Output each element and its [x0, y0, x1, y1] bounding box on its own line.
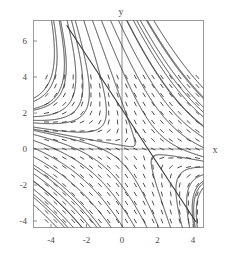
- figure-container: -4-2024-4-20246 x y: [0, 0, 234, 259]
- y-tick-label: 4: [23, 72, 28, 82]
- y-axis-label: y: [119, 6, 124, 17]
- y-tick-label: -2: [20, 180, 28, 190]
- x-tick-label: -2: [83, 235, 91, 245]
- x-tick-label: -4: [47, 235, 55, 245]
- y-tick-label: -4: [20, 216, 28, 226]
- y-tick-label: 0: [23, 144, 28, 154]
- x-axis-label: x: [213, 144, 218, 155]
- x-tick-label: 0: [120, 235, 125, 245]
- slope-field-plot: -4-2024-4-20246 x y: [0, 0, 234, 259]
- x-tick-label: 2: [155, 235, 160, 245]
- y-tick-label: 6: [23, 36, 28, 46]
- x-tick-label: 4: [191, 235, 196, 245]
- y-tick-label: 2: [23, 108, 28, 118]
